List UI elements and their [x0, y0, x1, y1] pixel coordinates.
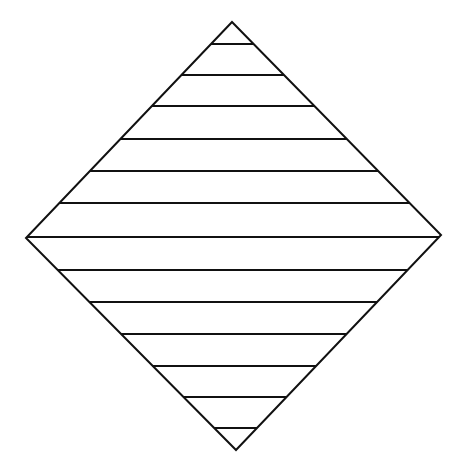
horizontal-hatch-lines	[27, 44, 439, 428]
hatched-diamond-figure	[0, 0, 466, 471]
